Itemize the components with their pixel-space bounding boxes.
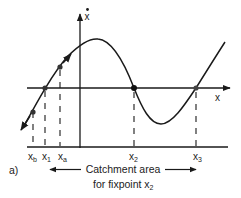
- point-xb: [30, 109, 35, 114]
- label-x2: x2: [129, 151, 138, 163]
- y-axis-label: x: [85, 11, 90, 22]
- point-x1: [42, 85, 47, 90]
- drop-lines: [33, 70, 196, 146]
- x-axis-label: x: [215, 92, 220, 103]
- point-x2: [131, 85, 137, 91]
- caption-line1: Catchment area: [86, 163, 161, 175]
- point-xa: [57, 64, 62, 69]
- phase-curve: [24, 39, 225, 126]
- point-x3: [193, 85, 198, 90]
- flow-arrow-left: [21, 116, 30, 130]
- phase-diagram: x x xb x1 xa x2 x3 a) Catchment area for…: [0, 0, 241, 198]
- label-x1: x1: [42, 151, 51, 163]
- label-x3: x3: [193, 151, 202, 163]
- panel-label: a): [9, 164, 18, 176]
- flow-arrow-right: [63, 54, 71, 63]
- label-xa: xa: [58, 151, 67, 163]
- label-xb: xb: [28, 151, 37, 163]
- caption-line2: for fixpoint x2: [93, 178, 154, 191]
